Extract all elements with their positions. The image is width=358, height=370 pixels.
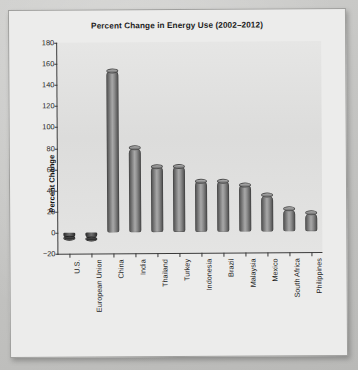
x-tick-label: Indonesia [204, 259, 213, 291]
bar[interactable] [195, 181, 207, 232]
bar-cap [85, 236, 97, 241]
x-tick-mark [91, 254, 92, 258]
x-tick-label: European Union [94, 259, 103, 312]
bar-column[interactable] [123, 42, 146, 253]
y-tick-label: 100 [42, 123, 54, 132]
y-tick-label: 120 [42, 102, 54, 111]
bar[interactable] [129, 148, 142, 232]
bar-cap [195, 178, 207, 183]
bar-column[interactable] [211, 42, 234, 253]
bar-chart: Percent Change in Energy Use (2002–2012)… [9, 9, 347, 357]
bar-negative[interactable] [63, 233, 75, 238]
bar-cap [129, 145, 141, 150]
bar-negative[interactable] [85, 232, 97, 238]
bar[interactable] [283, 209, 295, 231]
bar-cap [151, 164, 163, 169]
bar-cap [106, 68, 118, 73]
bar-column[interactable] [167, 42, 190, 253]
bar[interactable] [305, 213, 317, 231]
x-tick-mark [289, 252, 290, 256]
bar[interactable] [239, 185, 251, 231]
bar-cap [239, 182, 251, 187]
plot-area: 180160140120100806040200−20 U.S.European… [56, 41, 322, 255]
x-tick-label: South Africa [292, 258, 301, 297]
x-tick-mark [311, 252, 312, 256]
x-tick-mark [179, 253, 180, 257]
x-tick-mark [69, 254, 70, 258]
bar-column[interactable] [299, 41, 322, 252]
x-tick-label: Mexico [270, 258, 279, 281]
x-tick-mark [201, 253, 202, 257]
x-tick-label: Thailand [160, 259, 169, 287]
bar-column[interactable] [189, 42, 212, 253]
x-tick-mark [223, 253, 224, 257]
x-tick-label: China [116, 259, 125, 278]
bar[interactable] [106, 71, 119, 232]
x-tick-label: Malaysia [248, 259, 257, 288]
bar-column[interactable] [255, 41, 278, 252]
y-axis-label: Percent Change [47, 155, 56, 213]
chart-card: Percent Change in Energy Use (2002–2012)… [8, 8, 348, 358]
y-tick-label: −20 [43, 249, 56, 258]
bar[interactable] [151, 167, 163, 232]
bar-cap [261, 193, 273, 198]
bar-column[interactable] [57, 43, 80, 254]
bar-cap [173, 164, 185, 169]
x-tick-mark [135, 253, 136, 257]
x-tick-label: U.S. [72, 260, 81, 274]
y-tick-label: 140 [42, 80, 54, 89]
bar-cap [283, 206, 295, 211]
bar-column[interactable] [101, 42, 124, 253]
bar-column[interactable] [277, 41, 300, 252]
x-tick-label: Philippines [314, 258, 323, 293]
bar[interactable] [173, 166, 185, 231]
x-tick-mark [157, 253, 158, 257]
x-tick-label: Turkey [182, 259, 191, 281]
bar-column[interactable] [233, 42, 256, 253]
x-tick-label: Brazil [226, 259, 235, 277]
bar-cap [63, 235, 75, 240]
bar-column[interactable] [79, 42, 102, 253]
bar[interactable] [217, 181, 229, 232]
x-tick-label: India [138, 259, 147, 275]
bar-column[interactable] [145, 42, 168, 253]
x-tick-mark [113, 253, 114, 257]
bar-cap [305, 211, 317, 216]
y-tick-label: 160 [42, 59, 54, 68]
bar-cap [217, 178, 229, 183]
x-tick-mark [245, 253, 246, 257]
x-tick-mark [267, 252, 268, 256]
bars-layer [57, 41, 322, 254]
chart-title: Percent Change in Energy Use (2002–2012) [9, 20, 345, 31]
y-tick-label: 180 [42, 38, 54, 47]
y-tick-mark [55, 254, 59, 255]
bar[interactable] [261, 195, 273, 231]
